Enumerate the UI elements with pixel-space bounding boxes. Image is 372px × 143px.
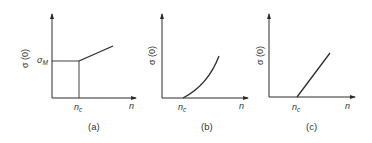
- panel-b-x-label: n: [239, 102, 244, 111]
- panel-a-curve: [79, 46, 113, 61]
- sigma-subscript: M: [42, 59, 47, 66]
- panel-a-caption: (a): [88, 122, 100, 132]
- n-subscript: c: [297, 106, 300, 113]
- panel-c-caption: (c): [306, 122, 317, 132]
- panel-b-plot: [162, 14, 248, 98]
- n-subscript: c: [79, 106, 82, 113]
- n-subscript: c: [183, 106, 186, 113]
- panel-a-sigma-m-tick: σM: [37, 56, 48, 67]
- panel-b-curve: [183, 56, 219, 98]
- panel-c-x-label: n: [345, 102, 350, 111]
- panel-a-y-label: σ (0): [21, 48, 30, 70]
- panel-a-nc-tick: nc: [74, 103, 82, 114]
- panel-c-curve: [297, 53, 330, 97]
- panel-b-nc-tick: nc: [178, 103, 186, 114]
- panel-c-nc-tick: nc: [292, 103, 300, 114]
- panel-b-caption: (b): [201, 122, 213, 132]
- panel-c-plot: [269, 14, 355, 97]
- panel-c-y-label: σ (0): [256, 45, 265, 67]
- panel-a-plot: [52, 14, 136, 98]
- panel-a-x-label: n: [129, 102, 134, 111]
- panel-b-y-label: σ (0): [148, 45, 157, 67]
